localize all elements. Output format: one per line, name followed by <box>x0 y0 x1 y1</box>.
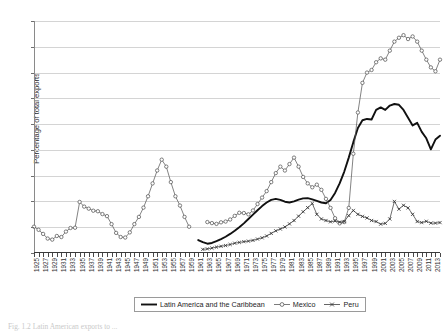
data-point-marker <box>215 222 218 225</box>
data-point-marker <box>379 57 382 60</box>
data-point-marker <box>183 215 186 218</box>
x-tick-mark <box>143 253 144 257</box>
data-point-marker <box>146 195 149 198</box>
x-tick-mark <box>372 253 373 257</box>
data-point-marker <box>124 236 127 239</box>
data-point-marker <box>242 211 245 214</box>
series-line-mexico <box>207 35 440 224</box>
x-tick-mark <box>80 253 81 257</box>
x-tick-label: 1993 <box>344 258 350 272</box>
x-tick-mark <box>440 253 441 257</box>
data-point-marker <box>270 232 273 235</box>
series-line-peru <box>203 201 440 249</box>
x-tick-mark <box>139 253 140 257</box>
legend-label: Mexico <box>293 301 316 308</box>
x-tick-label: 1999 <box>371 258 377 272</box>
data-point-marker <box>105 214 108 217</box>
data-point-marker <box>406 37 409 40</box>
legend-item[interactable]: Latin America and the Caribbean <box>141 300 265 309</box>
x-tick-label: 1995 <box>353 258 359 272</box>
data-point-marker <box>69 226 72 229</box>
x-tick-mark <box>276 253 277 257</box>
data-point-marker <box>96 210 99 213</box>
x-tick-mark <box>239 253 240 257</box>
plot-area: Percentage of total exports 010203040506… <box>34 21 440 253</box>
x-tick-mark <box>75 253 76 257</box>
legend-item[interactable]: Peru <box>324 300 358 309</box>
data-point-marker <box>438 58 441 61</box>
legend-label: Latin America and the Caribbean <box>160 301 265 308</box>
data-point-marker <box>347 214 350 217</box>
data-point-marker <box>384 58 387 61</box>
x-tick-mark <box>43 253 44 257</box>
y-tick-mark <box>31 73 34 74</box>
x-tick-mark <box>317 253 318 257</box>
x-tick-label: 1943 <box>116 258 122 272</box>
x-tick-mark <box>267 253 268 257</box>
legend-swatch-none-icon <box>141 300 157 309</box>
x-tick-mark <box>353 253 354 257</box>
y-tick-mark <box>31 176 34 177</box>
data-point-marker <box>224 220 227 223</box>
x-tick-mark <box>335 253 336 257</box>
data-point-marker <box>311 186 314 189</box>
x-tick-mark <box>226 253 227 257</box>
data-point-marker <box>151 182 154 185</box>
y-tick-mark <box>31 150 34 151</box>
x-tick-mark <box>207 253 208 257</box>
data-point-marker <box>306 206 309 209</box>
y-tick-mark <box>31 21 34 22</box>
x-tick-label: 1963 <box>207 258 213 272</box>
data-point-marker <box>283 225 286 228</box>
x-tick-mark <box>312 253 313 257</box>
data-point-marker <box>82 205 85 208</box>
data-point-marker <box>233 214 236 217</box>
data-point-marker <box>274 171 277 174</box>
x-tick-mark <box>390 253 391 257</box>
x-tick-mark <box>285 253 286 257</box>
data-point-marker <box>420 49 423 52</box>
x-tick-label: 1965 <box>216 258 222 272</box>
x-tick-label: 2003 <box>390 258 396 272</box>
x-tick-mark <box>121 253 122 257</box>
data-point-marker <box>306 182 309 185</box>
x-tick-mark <box>212 253 213 257</box>
x-axis-labels: 1925192719291931193319351937193919411943… <box>34 258 440 292</box>
data-point-marker <box>297 215 300 218</box>
x-tick-label: 1931 <box>61 258 67 272</box>
x-tick-label: 1987 <box>317 258 323 272</box>
x-tick-label: 1977 <box>271 258 277 272</box>
x-tick-mark <box>280 253 281 257</box>
x-tick-mark <box>394 253 395 257</box>
data-point-marker <box>415 40 418 43</box>
x-tick-label: 1933 <box>70 258 76 272</box>
x-tick-mark <box>185 253 186 257</box>
x-tick-mark <box>308 253 309 257</box>
y-tick-mark <box>31 47 34 48</box>
x-tick-label: 1947 <box>134 258 140 272</box>
x-tick-mark <box>157 253 158 257</box>
x-tick-mark <box>116 253 117 257</box>
x-tick-mark <box>426 253 427 257</box>
x-tick-mark <box>435 253 436 257</box>
data-point-marker <box>114 231 117 234</box>
x-tick-label: 1927 <box>43 258 49 272</box>
data-point-marker <box>41 232 44 235</box>
data-point-marker <box>238 211 241 214</box>
data-point-marker <box>165 165 168 168</box>
data-point-marker <box>279 227 282 230</box>
data-point-marker <box>101 212 104 215</box>
x-tick-mark <box>362 253 363 257</box>
x-tick-mark <box>198 253 199 257</box>
data-point-marker <box>402 33 405 36</box>
data-point-marker <box>388 49 391 52</box>
data-point-marker <box>329 206 332 209</box>
data-point-marker <box>352 152 355 155</box>
x-tick-mark <box>189 253 190 257</box>
data-point-marker <box>425 58 428 61</box>
legend-item[interactable]: Mexico <box>274 300 316 309</box>
legend-swatch-open-circle-icon <box>274 300 290 309</box>
x-tick-mark <box>349 253 350 257</box>
data-point-marker <box>361 81 364 84</box>
data-point-marker <box>256 202 259 205</box>
